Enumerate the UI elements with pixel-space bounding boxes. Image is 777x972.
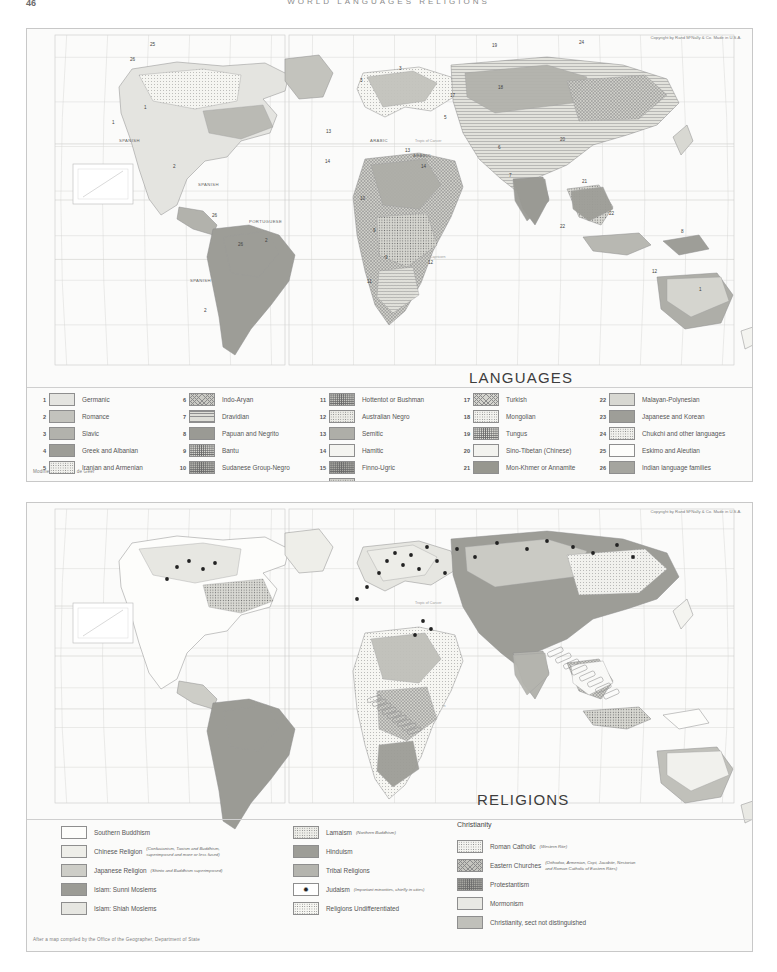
- landmass-japan: [673, 599, 693, 629]
- legend-item-number: 20: [457, 448, 470, 454]
- legend-item[interactable]: 23Japanese and Korean: [593, 408, 725, 425]
- legend-item[interactable]: 12Australian Negro: [313, 408, 424, 425]
- christianity-heading: Christianity: [457, 821, 492, 828]
- legend-item[interactable]: Mormonism: [457, 894, 636, 913]
- legend-item[interactable]: 4Greek and Albanian: [33, 442, 143, 459]
- legend-item[interactable]: 14Hamitic: [313, 442, 424, 459]
- landmass-indonesia: [583, 233, 651, 255]
- legend-swatch: [293, 826, 319, 839]
- legend-item[interactable]: Lamaism(Northern Buddhism): [293, 823, 424, 842]
- legend-swatch: [49, 427, 75, 440]
- judaism-marker: [545, 539, 549, 543]
- judaism-marker: [187, 559, 191, 563]
- landmass-nzealand: [741, 327, 752, 349]
- legend-item-number: 14: [313, 448, 326, 454]
- legend-item[interactable]: 20Sino-Tibetan (Chinese): [457, 442, 575, 459]
- legend-item-number: 1: [33, 397, 46, 403]
- map-region-number: 1: [144, 105, 147, 110]
- judaism-marker: [425, 545, 429, 549]
- legend-item-number: 15: [313, 465, 326, 471]
- languages-map-panel[interactable]: Tropic of CancerEquatorTropic of Caprico…: [26, 28, 753, 482]
- landmass-camerica: [177, 207, 217, 235]
- judaism-marker: [473, 555, 477, 559]
- map-region-number: 3: [399, 66, 402, 71]
- legend-item[interactable]: 9Bantu: [173, 442, 290, 459]
- legend-item[interactable]: 7Dravidian: [173, 408, 290, 425]
- legend-swatch: [473, 393, 499, 406]
- legend-item[interactable]: 21Mon-Khmer or Annamite: [457, 459, 575, 476]
- landmass-greenland: [285, 55, 333, 99]
- legend-item[interactable]: 16Samoyede: [313, 476, 424, 482]
- legend-item-label: Japanese Religion: [94, 867, 147, 874]
- legend-item[interactable]: 5Iranian and Armenian: [33, 459, 143, 476]
- legend-column: 11Hottentot or Bushman12Australian Negro…: [313, 391, 424, 482]
- legend-item[interactable]: 10Sudanese Group-Negro: [173, 459, 290, 476]
- legend-item[interactable]: Southern Buddhism: [61, 823, 223, 842]
- legend-item[interactable]: ✹Judaism(Important minorities, chiefly i…: [293, 880, 424, 899]
- legend-item[interactable]: Tribal Religions: [293, 861, 424, 880]
- legend-item-number: 8: [173, 431, 186, 437]
- legend-item[interactable]: Protestantism: [457, 875, 636, 894]
- legend-item[interactable]: 19Tungus: [457, 425, 575, 442]
- legend-item[interactable]: 1Germanic: [33, 391, 143, 408]
- legend-column: 6Indo-Aryan7Dravidian8Papuan and Negrito…: [173, 391, 290, 476]
- map-region-number: 14: [325, 159, 331, 164]
- legend-swatch: [189, 393, 215, 406]
- legend-column: Southern BuddhismChinese Religion(Confuc…: [61, 823, 223, 918]
- legend-item-number: 13: [313, 431, 326, 437]
- legend-item[interactable]: 24Chukchi and other languages: [593, 425, 725, 442]
- legend-item[interactable]: 15Finno-Ugric: [313, 459, 424, 476]
- legend-item[interactable]: Religions Undifferentiated: [293, 899, 424, 918]
- legend-item-label: Christianity, sect not distinguished: [490, 919, 586, 926]
- map-region-number: 6: [498, 145, 501, 150]
- map-region-number: 13: [326, 129, 332, 134]
- legend-item-label: Dravidian: [222, 413, 249, 420]
- legend-item[interactable]: Chinese Religion(Confucianism, Taoism an…: [61, 842, 223, 861]
- page-header: 46 WORLD LANGUAGES RELIGIONS: [0, 0, 777, 16]
- legend-item[interactable]: 17Turkish: [457, 391, 575, 408]
- legend-item[interactable]: Christianity, sect not distinguished: [457, 913, 636, 932]
- legend-item[interactable]: 18Mongolian: [457, 408, 575, 425]
- legend-column: 17Turkish18Mongolian19Tungus20Sino-Tibet…: [457, 391, 575, 476]
- legend-swatch: [189, 427, 215, 440]
- legend-item-label: Finno-Ugric: [362, 464, 395, 471]
- legend-item[interactable]: 11Hottentot or Bushman: [313, 391, 424, 408]
- judaism-marker: [377, 571, 381, 575]
- judaism-marker: [213, 561, 217, 565]
- legend-item[interactable]: Japanese Religion(Shinto and Buddhism su…: [61, 861, 223, 880]
- judaism-marker: [631, 555, 635, 559]
- map-region-number: 2: [173, 164, 176, 169]
- judaism-marker: [591, 551, 595, 555]
- legend-item[interactable]: 26Indian language families: [593, 459, 725, 476]
- map-inset: [73, 603, 133, 643]
- legend-item[interactable]: Islam: Sunni Moslems: [61, 880, 223, 899]
- legend-item-label: Hottentot or Bushman: [362, 396, 424, 403]
- legend-item[interactable]: Eastern Churches(Orthodox, Armenian, Cop…: [457, 856, 636, 875]
- legend-column: Lamaism(Northern Buddhism)HinduismTribal…: [293, 823, 424, 918]
- landmass-greenland: [285, 529, 333, 573]
- legend-item[interactable]: Islam: Shiah Moslems: [61, 899, 223, 918]
- legend-item[interactable]: Hinduism: [293, 842, 424, 861]
- religions-map-panel[interactable]: Tropic of CancerEquatorTropic of Caprico…: [26, 502, 753, 952]
- legend-item[interactable]: 13Semitic: [313, 425, 424, 442]
- legend-swatch: [609, 461, 635, 474]
- legend-item[interactable]: 2Romance: [33, 408, 143, 425]
- legend-item[interactable]: 22Malayan-Polynesian: [593, 391, 725, 408]
- legend-item-label: Hinduism: [326, 848, 353, 855]
- judaism-marker: [429, 627, 433, 631]
- legend-item[interactable]: 6Indo-Aryan: [173, 391, 290, 408]
- legend-item[interactable]: 3Slavic: [33, 425, 143, 442]
- legend-item[interactable]: 25Eskimo and Aleutian: [593, 442, 725, 459]
- legend-item[interactable]: 8Papuan and Negrito: [173, 425, 290, 442]
- legend-item-number: 23: [593, 414, 606, 420]
- legend-swatch: [457, 878, 483, 891]
- legend-item-label: Sino-Tibetan (Chinese): [506, 447, 571, 454]
- legend-item-label: Roman Catholic: [490, 843, 535, 850]
- legend-item-number: 3: [33, 431, 46, 437]
- legend-item-note: (Western Rite): [539, 844, 567, 849]
- map-region-number: 5: [444, 115, 447, 120]
- legend-item[interactable]: Roman Catholic(Western Rite): [457, 837, 636, 856]
- landmass-camerica: [177, 681, 217, 709]
- legend-swatch: [609, 444, 635, 457]
- legend-item-label: Australian Negro: [362, 413, 410, 420]
